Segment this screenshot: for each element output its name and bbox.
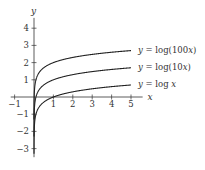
label-log-100x: y = log(100x) (137, 45, 196, 55)
curve-labels: y = log(100x)y = log(10x)y = log x (137, 45, 196, 89)
x-tick-label: −1 (8, 99, 21, 109)
curves (34, 51, 131, 154)
curve-log-10x (34, 68, 131, 137)
x-tick-label: 4 (109, 99, 114, 109)
x-tick-label: 2 (70, 99, 75, 109)
log-curves-chart: xy −112345−3−2−11234 y = log(100x)y = lo… (0, 0, 205, 170)
y-axis-label: y (30, 6, 37, 16)
label-log-x: y = log x (137, 79, 176, 89)
y-tick-label: −2 (16, 126, 29, 136)
y-tick-label: 3 (24, 40, 29, 50)
x-axis-label: x (147, 92, 152, 102)
axes: xy (11, 6, 153, 157)
y-tick-label: −1 (16, 109, 29, 119)
x-tick-label: 5 (128, 99, 133, 109)
y-tick-label: 4 (24, 23, 29, 33)
x-tick-label: 3 (89, 99, 94, 109)
y-tick-label: 2 (24, 58, 29, 68)
y-tick-label: −3 (16, 144, 29, 154)
y-tick-label: 1 (24, 75, 29, 85)
curve-log-x (34, 85, 131, 154)
label-log-10x: y = log(10x) (137, 62, 191, 72)
ticks: −112345−3−2−11234 (8, 23, 133, 153)
curve-log-100x (34, 51, 131, 120)
x-tick-label: 1 (51, 99, 56, 109)
